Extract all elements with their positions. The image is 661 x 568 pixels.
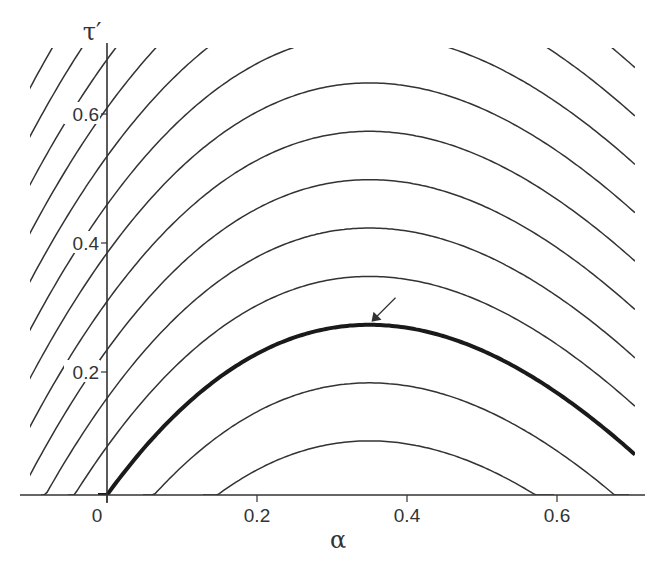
peak-arrow-icon — [372, 298, 396, 322]
axes — [20, 43, 645, 503]
contour-line — [17, 83, 635, 403]
y-tick-label: 0.4 — [73, 233, 100, 254]
contour-line — [17, 0, 635, 16]
contour-line — [17, 131, 635, 451]
x-ticks: 00.20.40.6 — [92, 495, 571, 526]
contour-line — [17, 0, 635, 161]
x-tick-label: 0.2 — [244, 505, 270, 526]
contour-curves — [17, 0, 635, 495]
contour-line — [17, 35, 635, 355]
contour-line — [17, 0, 635, 306]
y-tick-label: 0.6 — [73, 104, 99, 125]
x-tick-label: 0 — [92, 505, 103, 526]
contour-line — [17, 0, 635, 258]
contour-line — [41, 228, 635, 495]
contour-chart: 00.20.40.6 0.20.40.6 α τ′ — [0, 0, 661, 568]
y-axis-label: τ′ — [83, 18, 102, 46]
contour-line — [203, 441, 554, 495]
x-tick-label: 0.6 — [544, 505, 570, 526]
y-ticks: 0.20.40.6 — [64, 102, 107, 383]
contour-line — [143, 383, 629, 495]
x-axis-label: α — [330, 526, 346, 554]
contour-line — [17, 180, 635, 495]
x-tick-label: 0.4 — [394, 505, 421, 526]
y-tick-label: 0.2 — [73, 362, 99, 383]
